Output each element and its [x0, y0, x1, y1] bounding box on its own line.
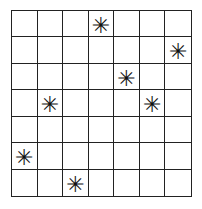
grid-cell	[165, 90, 191, 116]
asterisk-icon: ✳	[117, 68, 135, 90]
grid-cell	[114, 37, 140, 63]
grid-cell	[89, 170, 115, 196]
grid-cell	[165, 64, 191, 90]
grid-cell: ✳	[165, 37, 191, 63]
grid-cell	[114, 11, 140, 37]
grid-cell	[12, 170, 38, 196]
grid-cell	[140, 170, 166, 196]
grid-cell	[38, 11, 64, 37]
grid-cell	[89, 143, 115, 169]
grid-cell	[114, 170, 140, 196]
asterisk-icon: ✳	[143, 94, 161, 116]
grid-cell: ✳	[89, 11, 115, 37]
asterisk-icon: ✳	[15, 147, 33, 169]
grid-cell	[140, 143, 166, 169]
grid-cell: ✳	[114, 64, 140, 90]
grid-cell	[12, 117, 38, 143]
grid-cell	[114, 117, 140, 143]
grid-cell	[63, 37, 89, 63]
grid-cell	[38, 64, 64, 90]
grid-cell	[12, 37, 38, 63]
grid-cell	[89, 90, 115, 116]
grid-cell	[38, 37, 64, 63]
grid-cell	[63, 143, 89, 169]
grid-cell: ✳	[38, 90, 64, 116]
grid-cell	[12, 11, 38, 37]
grid-cell	[12, 90, 38, 116]
grid-cell	[114, 90, 140, 116]
grid-cell	[89, 64, 115, 90]
asterisk-icon: ✳	[41, 94, 59, 116]
asterisk-icon: ✳	[169, 41, 187, 63]
asterisk-icon: ✳	[66, 174, 84, 196]
grid-cell	[38, 143, 64, 169]
grid-cell	[165, 11, 191, 37]
grid-cell	[114, 143, 140, 169]
grid-cell	[38, 117, 64, 143]
grid-cell: ✳	[12, 143, 38, 169]
grid-cell	[140, 117, 166, 143]
asterisk-icon: ✳	[92, 15, 110, 37]
grid-cell	[165, 143, 191, 169]
grid-cell	[63, 64, 89, 90]
grid-cell	[165, 170, 191, 196]
grid-cell	[140, 64, 166, 90]
grid-cell	[140, 37, 166, 63]
grid-cell: ✳	[140, 90, 166, 116]
grid-cell	[89, 117, 115, 143]
grid-cell	[12, 64, 38, 90]
star-grid: ✳✳✳✳✳✳✳	[11, 10, 192, 197]
grid-cell	[63, 90, 89, 116]
grid-cell	[63, 117, 89, 143]
grid-cell	[140, 11, 166, 37]
grid-cell	[63, 11, 89, 37]
grid-cell	[165, 117, 191, 143]
grid-cell	[89, 37, 115, 63]
grid-cell	[38, 170, 64, 196]
grid-cell: ✳	[63, 170, 89, 196]
